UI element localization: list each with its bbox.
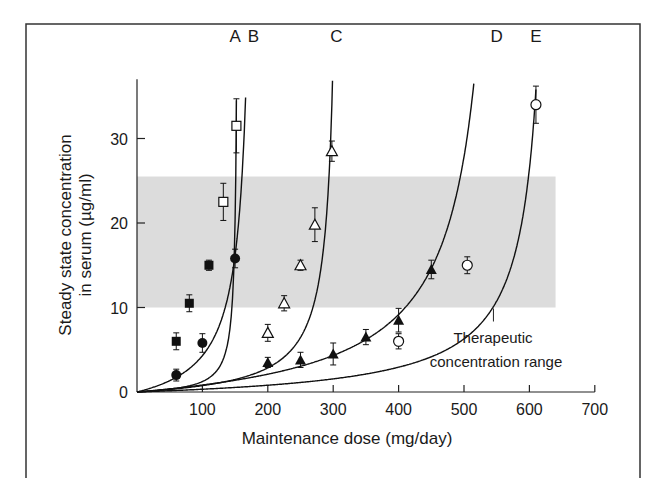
therapeutic-label-line1: Therapeutic [453,329,533,346]
chart-figure: 100200300400500600700 0102030 ABCDE Main… [0,0,659,478]
data-point-a [232,99,241,153]
curve-label-d: D [491,27,503,46]
data-point-c [326,141,337,161]
data-point-d [393,308,404,332]
y-axis-label-line2: in serum (µg/ml) [76,173,95,296]
data-point-e [531,86,541,123]
y-tick-label: 0 [119,384,128,401]
x-tick-label: 100 [189,401,216,418]
therapeutic-label-line2: concentration range [430,353,563,370]
x-tick-label: 500 [451,401,478,418]
y-tick-label: 30 [110,131,128,148]
x-axis-ticks: 100200300400500600700 [189,385,608,418]
curve-label-e: E [530,27,541,46]
x-axis-label: Maintenance dose (mg/day) [242,429,453,448]
data-point-c [262,324,273,341]
y-tick-label: 20 [110,215,128,232]
data-point-b [197,334,207,353]
curve-label-c: C [330,27,342,46]
x-tick-label: 200 [254,401,281,418]
curve-label-b: B [248,27,259,46]
data-point-a [204,260,213,270]
data-point-d [262,357,273,368]
y-axis-label-line1: Steady state concentration [56,134,75,335]
x-tick-label: 700 [581,401,608,418]
y-tick-label: 10 [110,300,128,317]
curve-labels: ABCDE [229,27,541,46]
x-tick-label: 300 [320,401,347,418]
therapeutic-range-band [137,177,556,308]
curve-label-a: A [229,27,241,46]
data-point-e [394,334,404,349]
data-point-a [172,333,181,350]
x-tick-label: 400 [385,401,412,418]
x-tick-label: 600 [516,401,543,418]
